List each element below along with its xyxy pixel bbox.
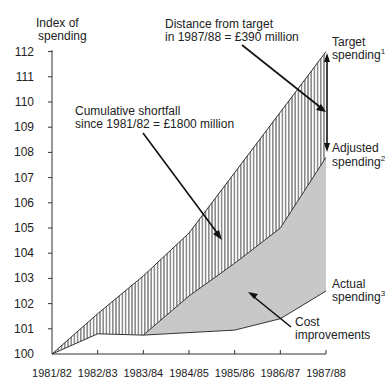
x-tick-label: 1981/82 (32, 367, 72, 379)
svg-text:spending1: spending1 (332, 47, 386, 62)
svg-text:spending2: spending2 (332, 154, 386, 169)
y-tick-label: 112 (15, 45, 34, 59)
target-label-sup: 1 (381, 47, 386, 56)
cost-annotation-line2: improvements (295, 328, 370, 342)
y-tick-label: 101 (14, 322, 34, 336)
shortfall-annotation-line2: since 1981/82 = £1800 million (75, 117, 234, 131)
y-tick-label: 110 (15, 95, 34, 109)
distance-annotation-line1: Distance from target (165, 17, 274, 31)
y-tick-label: 105 (14, 221, 34, 235)
actual-label-line2: spending (332, 290, 381, 304)
x-tick-label: 1987/88 (306, 367, 346, 379)
svg-text:spending3: spending3 (332, 289, 386, 304)
adjusted-label-sup: 2 (381, 154, 386, 163)
y-tick-label: 102 (14, 297, 34, 311)
plot-area (52, 52, 326, 354)
distance-annotation: Distance from target in 1987/88 = £390 m… (165, 17, 299, 44)
shortfall-arrow (143, 133, 222, 240)
x-tick-label: 1983/84 (123, 367, 163, 379)
y-axis-title-line1: Index of (36, 16, 79, 30)
adjusted-label-line1: Adjusted (332, 141, 379, 155)
y-tick-label: 108 (14, 145, 34, 159)
y-tick-label: 106 (14, 196, 34, 210)
y-ticks: 100101102103104105106107108109110111112 (14, 45, 52, 361)
shortfall-annotation: Cumulative shortfall since 1981/82 = £18… (75, 104, 234, 131)
cost-annotation: Cost improvements (295, 315, 370, 342)
actual-label-sup: 3 (381, 289, 386, 298)
x-tick-label: 1982/83 (78, 367, 118, 379)
y-tick-label: 109 (14, 120, 34, 134)
actual-label-line1: Actual (332, 277, 365, 291)
y-tick-label: 100 (14, 347, 34, 361)
y-tick-label: 111 (16, 70, 35, 84)
adjusted-label: Adjusted spending2 (332, 141, 386, 169)
distance-annotation-line2: in 1987/88 = £390 million (165, 30, 299, 44)
target-label: Target spending1 (332, 35, 386, 62)
target-label-line2: spending (332, 48, 381, 62)
y-tick-label: 107 (14, 171, 34, 185)
y-axis-title-line2: spending (38, 29, 87, 43)
y-tick-label: 103 (14, 271, 34, 285)
target-label-line1: Target (332, 35, 366, 49)
cost-annotation-line1: Cost (295, 315, 320, 329)
adjusted-label-line2: spending (332, 155, 381, 169)
actual-label: Actual spending3 (332, 277, 386, 304)
shortfall-annotation-line1: Cumulative shortfall (75, 104, 180, 118)
x-tick-label: 1986/87 (260, 367, 300, 379)
x-tick-label: 1985/86 (215, 367, 255, 379)
y-axis-title: Index of spending (36, 16, 87, 43)
y-tick-label: 104 (14, 246, 34, 260)
spending-chart: Index of spending 1001011021031041051061… (0, 0, 390, 388)
x-tick-label: 1984/85 (169, 367, 209, 379)
